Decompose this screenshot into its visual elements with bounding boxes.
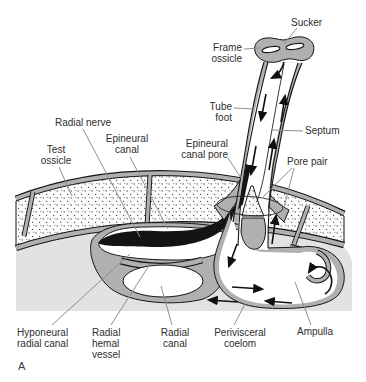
label-septum: Septum: [305, 125, 353, 136]
label-hyponeural-radial-canal: Hyponeural radial canal: [17, 327, 79, 349]
diagram-canvas: [0, 0, 366, 382]
label-epineural-canal: Epineural canal: [102, 133, 152, 155]
label-test-ossicle: Test ossicle: [36, 144, 76, 166]
label-radial-hemal-vessel: Radial hemal vessel: [92, 327, 126, 360]
tube-foot-anatomy-figure: Sucker Frame ossicle Tube foot Septum Ep…: [0, 0, 366, 382]
label-perivisceral-coelom: Perivisceral coelom: [210, 327, 270, 349]
label-ampulla: Ampulla: [297, 326, 339, 337]
panel-letter: A: [18, 361, 38, 372]
label-frame-ossicle: Frame ossicle: [204, 42, 242, 64]
label-tube-foot: Tube foot: [204, 101, 232, 123]
label-radial-nerve: Radial nerve: [51, 117, 115, 128]
label-sucker: Sucker: [291, 17, 335, 28]
label-epineural-canal-pore: Epineural canal pore: [168, 138, 228, 160]
label-radial-canal: Radial canal: [155, 327, 195, 349]
label-pore-pair: Pore pair: [287, 156, 345, 167]
